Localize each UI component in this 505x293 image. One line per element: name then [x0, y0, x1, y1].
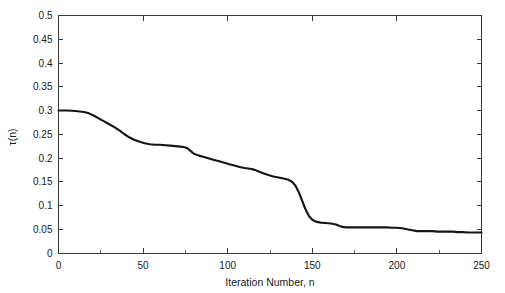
x-tick-label: 50 [138, 260, 150, 271]
plot-frame [59, 16, 482, 254]
y-tick-label: 0.2 [39, 153, 53, 164]
y-tick-label: 0.4 [39, 58, 53, 69]
y-tick-label: 0.25 [33, 129, 53, 140]
y-tick-label: 0 [47, 248, 53, 259]
x-tick-label: 250 [473, 260, 490, 271]
x-tick-label: 100 [219, 260, 236, 271]
x-tick-label: 200 [389, 260, 406, 271]
figure-container: 00.050.10.150.20.250.30.350.40.450.5 050… [0, 0, 505, 293]
y-tick-label: 0.35 [33, 81, 53, 92]
y-tick-label: 0.1 [39, 200, 53, 211]
x-tick-label: 0 [56, 260, 62, 271]
x-axis-ticks: 050100150200250 [56, 16, 491, 272]
y-tick-label: 0.45 [33, 34, 53, 45]
y-axis-ticks: 00.050.10.150.20.250.30.350.40.450.5 [33, 10, 481, 259]
y-tick-label: 0.05 [33, 224, 53, 235]
data-series-line [59, 111, 482, 233]
x-axis-label: Iteration Number, n [225, 276, 314, 288]
y-tick-label: 0.3 [39, 105, 53, 116]
y-axis-label: τ(n) [6, 129, 18, 146]
x-tick-label: 150 [304, 260, 321, 271]
data-series-group [59, 111, 482, 233]
y-tick-label: 0.5 [39, 10, 53, 21]
chart-canvas: 00.050.10.150.20.250.30.350.40.450.5 050… [0, 0, 505, 293]
y-tick-label: 0.15 [33, 176, 53, 187]
